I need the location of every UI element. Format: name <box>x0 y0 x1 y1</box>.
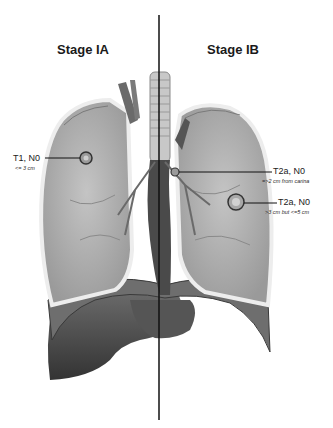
right-lung <box>176 105 272 305</box>
t2a-size-sublabel: >3 cm but <=5 cm <box>265 209 309 215</box>
tumor-t2a-size <box>228 194 244 210</box>
t2a-carina-sublabel: =>2 cm from carina <box>262 178 309 184</box>
tumor-t1 <box>80 152 92 164</box>
t2a-size-label: T2a, N0 <box>278 197 310 207</box>
left-lung <box>41 100 132 305</box>
stage-ib-title: Stage IB <box>207 42 259 57</box>
t1-sublabel: <= 3 cm <box>15 165 35 171</box>
stage-ia-title: Stage IA <box>57 42 109 57</box>
t2a-carina-label: T2a, N0 <box>273 166 305 176</box>
tumor-t2a-carina <box>171 168 179 176</box>
trachea <box>150 72 170 162</box>
t1-label: T1, N0 <box>13 153 40 163</box>
